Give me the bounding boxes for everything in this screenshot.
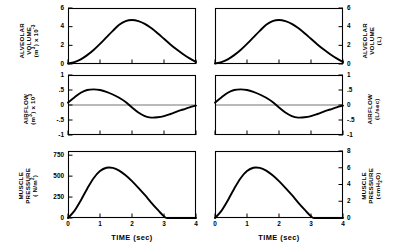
y-tick-label: 4 xyxy=(38,23,64,29)
x-tick-label: 2 xyxy=(124,220,140,227)
data-curve-alveolar-volume-si xyxy=(68,20,196,64)
x-tick-label: 4 xyxy=(188,220,204,227)
panel-muscle-pressure-si xyxy=(68,152,196,219)
x-tick-label: 0 xyxy=(207,220,223,227)
ylabel-line-2: (m3) x 103 xyxy=(29,94,36,125)
x-tick-label: 1 xyxy=(239,220,255,227)
x-tick-label: 3 xyxy=(156,220,172,227)
y-tick-label: 750 xyxy=(38,152,64,158)
y-tick-label: 1 xyxy=(347,72,373,78)
panel-airflow-si xyxy=(68,75,196,135)
ylabel-line-1: AIRFLOW xyxy=(22,94,29,125)
y-tick-label: -1 xyxy=(347,132,373,138)
y-tick-label: 4 xyxy=(347,181,373,187)
data-curve-alveolar-volume-clinical xyxy=(215,20,343,64)
y-tick-label: 4 xyxy=(347,23,373,29)
y-tick-label: .5 xyxy=(347,87,373,93)
y-tick-label: 6 xyxy=(347,165,373,171)
x-tick-label: 4 xyxy=(335,220,351,227)
x-tick-label: 2 xyxy=(271,220,287,227)
y-tick-label: 2 xyxy=(38,42,64,48)
y-tick-label: 0 xyxy=(38,61,64,67)
y-tick-label: -.5 xyxy=(347,117,373,123)
y-tick-label: 1 xyxy=(38,72,64,78)
ylabel-line-1: ALVEOLAR xyxy=(18,23,25,59)
y-tick-label: 250 xyxy=(38,194,64,200)
x-tick-label: 1 xyxy=(92,220,108,227)
y-tick-label: 6 xyxy=(38,5,64,11)
xlabel-left: TIME (sec) xyxy=(68,233,196,242)
ylabel-line-2: (L/sec) xyxy=(373,98,380,120)
ylabel-line-3: (cmH2O) xyxy=(375,172,382,199)
y-tick-label: .5 xyxy=(38,87,64,93)
y-tick-label: 0 xyxy=(347,61,373,67)
respiratory-mechanics-figure: ALVEOLAR VOLUME (m3) x 10-3 AIRFLOW (m3)… xyxy=(0,0,397,252)
ylabel-muscle-pressure-si: MUSCLE PRESSURE ( N/m2) xyxy=(17,148,39,224)
y-tick-label: -1 xyxy=(38,132,64,138)
y-tick-label: 6 xyxy=(347,5,373,11)
panel-alveolar-volume-si xyxy=(68,8,196,64)
ylabel-alveolar-volume-si: ALVEOLAR VOLUME (m3) x 10-3 xyxy=(18,6,40,76)
y-tick-label: 0 xyxy=(347,102,373,108)
y-tick-label: -.5 xyxy=(38,117,64,123)
data-curve-airflow-si xyxy=(68,89,196,117)
data-curve-airflow-clinical xyxy=(215,89,343,117)
panel-muscle-pressure-clinical xyxy=(215,151,343,218)
ylabel-line-1: MUSCLE xyxy=(17,172,24,200)
ylabel-line-2: VOLUME xyxy=(368,27,375,55)
ylabel-line-3: (L) xyxy=(376,36,383,45)
xlabel-right: TIME (sec) xyxy=(215,233,343,242)
data-curve-muscle-pressure-si xyxy=(68,167,196,218)
plot-frame xyxy=(69,152,196,218)
y-tick-label: 500 xyxy=(38,173,64,179)
x-tick-label: 0 xyxy=(60,220,76,227)
panel-alveolar-volume-clinical xyxy=(215,8,343,64)
plot-frame xyxy=(216,152,343,218)
x-tick-label: 3 xyxy=(303,220,319,227)
y-tick-label: 8 xyxy=(347,148,373,154)
ylabel-airflow-si: AIRFLOW (m3) x 103 xyxy=(22,76,36,142)
y-tick-label: 2 xyxy=(347,42,373,48)
y-tick-label: 0 xyxy=(38,102,64,108)
y-tick-label: 2 xyxy=(347,198,373,204)
data-curve-muscle-pressure-clinical xyxy=(215,167,343,218)
panel-airflow-clinical xyxy=(215,75,343,135)
